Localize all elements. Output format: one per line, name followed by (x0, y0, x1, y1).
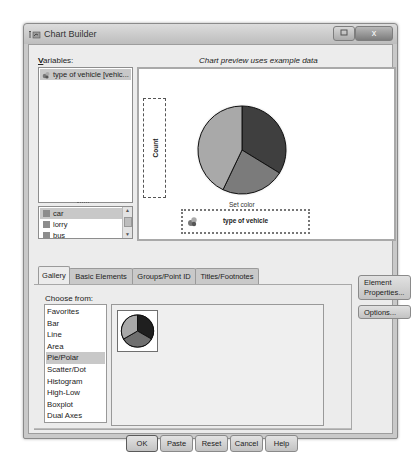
tab-gallery[interactable]: Gallery (38, 266, 70, 285)
reset-button[interactable]: Reset (195, 435, 228, 452)
chart-type-item-selected[interactable]: Pie/Polar (46, 352, 105, 364)
variables-list[interactable]: type of vehicle [vehic... (38, 67, 133, 203)
chart-type-item[interactable]: Scatter/Dot (46, 364, 105, 376)
pie-chart-preview (196, 104, 288, 196)
y-axis-drop-zone[interactable]: Count (143, 98, 166, 198)
category-label: car (53, 209, 63, 218)
categories-scrollbar[interactable]: ▲ ▼ (122, 207, 132, 238)
category-item[interactable]: lorry (40, 219, 122, 230)
category-color-swatch (43, 221, 50, 228)
help-button[interactable]: Help (265, 435, 298, 452)
y-axis-label: Count (151, 139, 158, 158)
button-separator (34, 428, 351, 429)
category-color-swatch (43, 232, 50, 239)
variable-item-label: type of vehicle [vehic... (53, 70, 129, 79)
color-variable-label: type of vehicle (183, 217, 308, 224)
paste-button[interactable]: Paste (160, 435, 193, 452)
chart-preview-canvas[interactable]: Count Set color type of vehicle (137, 67, 396, 241)
tab-basic-elements[interactable]: Basic Elements (69, 268, 133, 284)
nominal-variable-icon (42, 71, 50, 79)
dialog-body: VVariables: type of vehicle [vehic... ca… (28, 44, 393, 434)
variable-item[interactable]: type of vehicle [vehic... (40, 69, 131, 80)
chart-type-item[interactable]: Histogram (46, 376, 105, 388)
close-icon: x (372, 28, 377, 38)
variables-label-text: Variables: (38, 56, 73, 65)
set-color-label: Set color (229, 201, 255, 208)
chart-builder-icon (29, 28, 41, 39)
window-title: Chart Builder (44, 29, 97, 39)
chart-type-item[interactable]: Boxplot (46, 399, 105, 411)
chart-type-item[interactable]: Bar (46, 318, 105, 330)
category-color-swatch (43, 210, 50, 217)
close-button[interactable]: x (355, 26, 393, 41)
chart-builder-window: Chart Builder x VVariables: type of vehi… (23, 23, 398, 439)
category-item[interactable]: bus (40, 230, 122, 239)
choose-from-label: Choose from: (45, 294, 93, 303)
pie-chart-thumbnail[interactable] (117, 310, 158, 352)
restore-icon (334, 27, 354, 40)
scroll-up-arrow-icon[interactable]: ▲ (124, 207, 131, 214)
category-item[interactable]: car (40, 208, 122, 219)
title-bar[interactable]: Chart Builder x (24, 24, 397, 44)
list-splitter-handle[interactable] (77, 202, 89, 205)
ok-button[interactable]: OK (126, 435, 158, 452)
element-properties-button[interactable]: Element Properties... (358, 275, 411, 300)
gallery-thumbnails-area[interactable] (111, 304, 324, 426)
preview-note: Chart preview uses example data (199, 56, 318, 65)
chart-type-list[interactable]: Favorites Bar Line Area Pie/Polar Scatte… (44, 304, 107, 423)
cancel-button[interactable]: Cancel (230, 435, 263, 452)
tab-titles-footnotes[interactable]: Titles/Footnotes (195, 268, 259, 284)
options-button[interactable]: Options... (358, 305, 411, 319)
chart-type-item[interactable]: Line (46, 329, 105, 341)
restore-button[interactable] (333, 26, 355, 41)
pie-chart-icon (118, 311, 157, 351)
tab-groups-point-id[interactable]: Groups/Point ID (132, 268, 196, 284)
variables-label: VVariables: (38, 56, 73, 65)
category-label: bus (53, 231, 65, 239)
chart-type-item[interactable]: High-Low (46, 387, 105, 399)
chart-type-item[interactable]: Dual Axes (46, 410, 105, 422)
categories-list[interactable]: car lorry bus ▲ ▼ (38, 206, 133, 239)
scroll-thumb[interactable] (124, 217, 132, 227)
set-color-drop-zone[interactable]: type of vehicle (181, 209, 310, 234)
chart-type-item[interactable]: Favorites (46, 306, 105, 318)
chart-type-item[interactable]: Area (46, 341, 105, 353)
category-label: lorry (53, 220, 68, 229)
scroll-down-arrow-icon[interactable]: ▼ (124, 231, 131, 238)
